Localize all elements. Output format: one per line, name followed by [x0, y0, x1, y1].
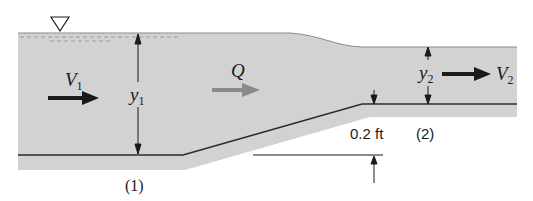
- free-surface-symbol-icon: [51, 17, 69, 31]
- label-y1: y1: [130, 85, 144, 107]
- label-rise-height: 0.2 ft: [350, 126, 383, 141]
- label-v1: V1: [65, 70, 83, 92]
- label-section-2: (2): [416, 126, 434, 141]
- label-q: Q: [231, 61, 245, 80]
- label-section-1: (1): [125, 178, 144, 194]
- label-v2: V2: [496, 64, 514, 86]
- water-region: [18, 33, 517, 170]
- channel-diagram: [0, 0, 533, 201]
- label-y2: y2: [419, 63, 433, 85]
